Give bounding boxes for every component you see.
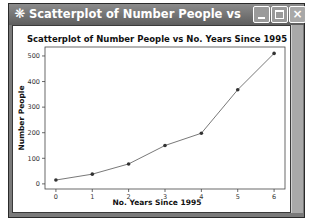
x-tick-label: 6 <box>272 193 276 201</box>
y-axis-label: Number People <box>17 86 26 151</box>
data-point <box>163 144 167 148</box>
x-tick-label: 5 <box>236 193 240 201</box>
x-axis-label: No. Years Since 1995 <box>113 198 202 207</box>
data-point <box>54 178 58 182</box>
y-tick-label: 400 <box>28 78 40 86</box>
x-tick-label: 0 <box>54 193 58 201</box>
data-point <box>127 162 131 166</box>
data-point <box>90 172 94 176</box>
x-tick-label: 1 <box>90 193 94 201</box>
y-tick-label: 500 <box>28 52 40 60</box>
y-tick-label: 300 <box>28 103 40 111</box>
data-point <box>236 88 240 92</box>
y-tick-label: 100 <box>28 155 40 163</box>
y-axis: 0100200300400500 <box>28 52 45 188</box>
y-tick-label: 0 <box>36 180 40 188</box>
plot-frame <box>45 47 285 189</box>
chart-title: Scatterplot of Number People vs No. Year… <box>27 34 287 44</box>
data-points <box>54 52 276 182</box>
series-line <box>56 53 274 180</box>
data-point <box>200 131 204 135</box>
scatterplot-chart: Scatterplot of Number People vs No. Year… <box>0 0 310 222</box>
y-tick-label: 200 <box>28 129 40 137</box>
data-point <box>272 52 276 56</box>
